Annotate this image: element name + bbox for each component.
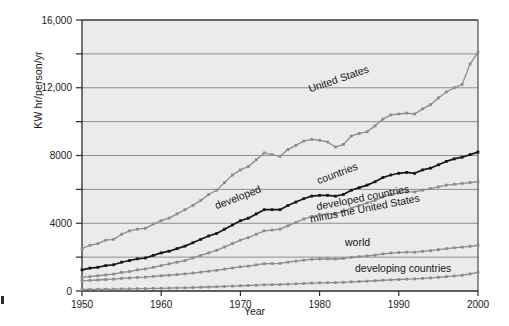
series-marker	[176, 287, 179, 290]
series-marker	[326, 141, 329, 144]
series-marker	[176, 273, 179, 276]
series-marker	[128, 277, 131, 280]
series-marker	[96, 242, 99, 245]
series-marker	[199, 199, 202, 202]
series-marker	[421, 108, 424, 111]
series-marker	[112, 263, 115, 266]
series-marker	[112, 238, 115, 241]
series-label-developing-countries: developing countries	[355, 262, 451, 274]
series-marker	[279, 155, 282, 158]
series-marker	[184, 272, 187, 275]
series-marker	[168, 287, 171, 290]
series-marker	[231, 174, 234, 177]
series-marker	[287, 224, 290, 227]
series-marker	[263, 229, 266, 232]
series-marker	[271, 283, 274, 286]
series-marker	[263, 262, 266, 265]
series-marker	[310, 195, 313, 198]
series-marker	[445, 160, 448, 163]
series-marker	[223, 246, 226, 249]
series-marker	[429, 167, 432, 170]
series-marker	[247, 265, 250, 268]
series-marker	[342, 281, 345, 284]
series-marker	[81, 247, 84, 250]
series-marker	[136, 287, 139, 290]
y-tick-label-12000: 12,000	[41, 82, 72, 93]
series-marker	[223, 268, 226, 271]
series-marker	[144, 276, 147, 279]
series-marker	[318, 194, 321, 197]
series-marker	[413, 251, 416, 254]
series-marker	[247, 284, 250, 287]
series-marker	[445, 247, 448, 250]
series-marker	[184, 286, 187, 289]
series-marker	[334, 281, 337, 284]
series-marker	[239, 284, 242, 287]
series-marker	[294, 144, 297, 147]
series-marker	[413, 277, 416, 280]
series-marker	[469, 153, 472, 156]
series-marker	[302, 197, 305, 200]
series-marker	[334, 258, 337, 261]
series-marker	[128, 287, 131, 290]
series-marker	[120, 288, 123, 291]
series-marker	[89, 275, 92, 278]
series-marker	[263, 152, 266, 155]
series-marker	[279, 283, 282, 286]
series-marker	[358, 280, 361, 283]
series-marker	[176, 261, 179, 264]
series-marker	[207, 235, 210, 238]
series-marker	[294, 201, 297, 204]
series-marker	[231, 224, 234, 227]
series-marker	[477, 151, 480, 154]
series-marker	[104, 278, 107, 281]
series-marker	[477, 244, 480, 247]
series-marker	[453, 157, 456, 160]
series-marker	[437, 97, 440, 100]
series-marker	[445, 184, 448, 187]
series-marker	[176, 247, 179, 250]
series-marker	[255, 213, 258, 216]
series-marker	[255, 264, 258, 267]
series-marker	[168, 217, 171, 220]
series-marker	[215, 285, 218, 288]
series-marker	[247, 165, 250, 168]
series-marker	[461, 274, 464, 277]
series-marker	[318, 281, 321, 284]
y-axis-title: KW hr/person/yr	[32, 0, 44, 180]
series-marker	[389, 113, 392, 116]
series-marker	[318, 258, 321, 261]
series-marker	[96, 288, 99, 291]
series-marker	[152, 223, 155, 226]
series-marker	[231, 285, 234, 288]
series-marker	[207, 270, 210, 273]
series-label-developing-countries-text: developing countries	[355, 262, 451, 274]
series-marker	[255, 158, 258, 161]
series-marker	[477, 180, 480, 183]
series-marker	[397, 172, 400, 175]
series-marker	[191, 272, 194, 275]
series-marker	[421, 250, 424, 253]
series-marker	[176, 213, 179, 216]
series-marker	[96, 266, 99, 269]
series-marker	[136, 228, 139, 231]
series-marker	[144, 287, 147, 290]
series-marker	[223, 181, 226, 184]
series-marker	[104, 274, 107, 277]
series-marker	[279, 228, 282, 231]
y-tick-label-8000: 8000	[50, 150, 73, 161]
series-marker	[271, 153, 274, 156]
series-marker	[397, 251, 400, 254]
series-marker	[81, 276, 84, 279]
series-marker	[120, 271, 123, 274]
series-marker	[168, 274, 171, 277]
series-marker	[112, 288, 115, 291]
series-marker	[160, 274, 163, 277]
series-marker	[358, 255, 361, 258]
series-marker	[350, 135, 353, 138]
series-marker	[366, 255, 369, 258]
series-marker	[437, 248, 440, 251]
series-marker	[81, 288, 84, 291]
series-label-world: world	[345, 236, 370, 248]
series-marker	[453, 183, 456, 186]
